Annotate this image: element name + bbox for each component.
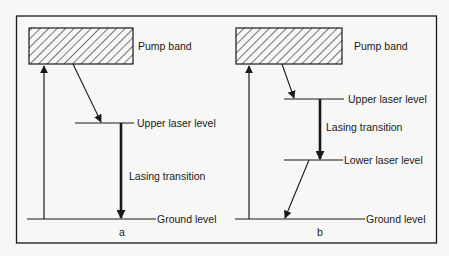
ground-level-label-a: Ground level xyxy=(157,213,217,225)
lower-laser-level-label-b: Lower laser level xyxy=(344,154,423,166)
panel-a: Pump band Upper laser level Lasing trans… xyxy=(27,28,217,238)
decay-arrow-lower-b xyxy=(285,160,309,218)
lasing-transition-label-b: Lasing transition xyxy=(326,121,403,133)
pump-band-box-b xyxy=(236,28,342,64)
pump-band-label-b: Pump band xyxy=(354,40,408,52)
panel-caption-b: b xyxy=(317,226,323,238)
lasing-transition-label-a: Lasing transition xyxy=(129,170,206,182)
decay-arrow-b xyxy=(282,64,294,98)
upper-laser-level-label-a: Upper laser level xyxy=(137,117,216,129)
panel-caption-a: a xyxy=(119,226,125,238)
energy-level-diagram: Pump band Upper laser level Lasing trans… xyxy=(0,0,449,256)
upper-laser-level-label-b: Upper laser level xyxy=(348,93,427,105)
decay-arrow-a xyxy=(73,64,101,122)
ground-level-label-b: Ground level xyxy=(366,213,426,225)
pump-band-box-a xyxy=(29,28,133,64)
panel-b: Pump band Upper laser level Lasing trans… xyxy=(235,28,427,238)
pump-band-label-a: Pump band xyxy=(138,40,192,52)
